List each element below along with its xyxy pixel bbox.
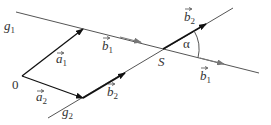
svg-text:b2: b2 xyxy=(184,9,195,26)
svg-text:b1: b1 xyxy=(102,38,113,55)
label-a1: a1 xyxy=(56,51,67,68)
svg-text:b1: b1 xyxy=(200,68,211,85)
label-alpha: α xyxy=(183,36,190,51)
label-b1-lower: b1 xyxy=(200,67,211,86)
vector-a2 xyxy=(22,76,83,98)
vector-b2-lower xyxy=(83,73,125,98)
svg-text:a2: a2 xyxy=(36,89,47,106)
label-g1: g1 xyxy=(4,18,15,35)
vector-b1-lower xyxy=(200,58,224,64)
label-origin: 0 xyxy=(12,77,19,92)
label-a2: a2 xyxy=(36,89,47,106)
label-b1-upper: b1 xyxy=(102,37,113,56)
svg-text:b2: b2 xyxy=(107,84,118,101)
vector-diagram: g1 g2 0 S α a1 a2 b1 b1 b2 b2 xyxy=(0,0,271,125)
vector-a1 xyxy=(22,29,83,76)
svg-text:a1: a1 xyxy=(56,51,67,68)
label-b2-lower: b2 xyxy=(107,83,118,102)
diagram-svg: g1 g2 0 S α a1 a2 b1 b1 b2 b2 xyxy=(0,0,271,125)
vector-b1-upper xyxy=(120,37,141,42)
angle-arc-alpha xyxy=(194,31,199,58)
label-b2-upper: b2 xyxy=(184,8,195,27)
label-S: S xyxy=(158,54,165,69)
label-g2: g2 xyxy=(62,104,73,121)
